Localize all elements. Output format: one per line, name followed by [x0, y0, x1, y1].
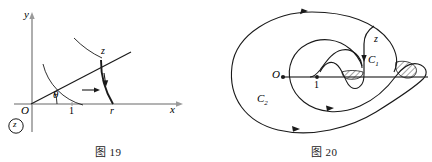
label-origin: O — [21, 104, 29, 116]
figure-20: O 1 z C1 C2 图 20 — [216, 0, 432, 162]
label-x-axis: x — [170, 103, 175, 115]
label-origin-f20: O — [272, 68, 280, 80]
contour-c2-curve — [231, 12, 426, 133]
label-y-axis: y — [24, 8, 29, 20]
figure-19-caption: 图 19 — [0, 143, 216, 159]
figure-19-canvas — [0, 0, 216, 146]
label-unit-point-f20: 1 — [314, 79, 319, 90]
label-point-z-f20: z — [374, 33, 378, 44]
figure-page: y x O θ 1 r z z 图 19 — [0, 0, 432, 162]
x-axis — [14, 101, 183, 106]
figure-20-canvas — [216, 0, 432, 146]
radial-direction-arrow — [82, 87, 100, 92]
figure-19: y x O θ 1 r z z 图 19 — [0, 0, 216, 162]
label-unit-point: 1 — [69, 105, 74, 116]
label-angle-theta: θ — [53, 88, 58, 100]
label-contour-c1: C1 — [368, 53, 379, 68]
figure-20-caption: 图 20 — [216, 143, 432, 159]
hatched-region-left — [342, 71, 363, 80]
contour-arrow-lower-outer — [292, 126, 300, 132]
contour-arrow-lower-inner — [326, 106, 334, 112]
label-contour-c1-sub: 1 — [375, 60, 379, 68]
label-contour-c2: C2 — [257, 92, 268, 107]
label-circled-z: z — [13, 120, 17, 129]
contour-arrow-top — [300, 8, 308, 14]
label-point-z: z — [101, 45, 105, 56]
ray-from-origin — [31, 52, 131, 104]
label-contour-c2-sub: 2 — [264, 99, 268, 107]
inner-arc — [43, 64, 83, 105]
y-axis — [29, 12, 34, 132]
label-radius-point: r — [110, 105, 114, 116]
outer-arc-upper — [74, 38, 102, 58]
contour-arrow-c1-down — [361, 55, 366, 62]
